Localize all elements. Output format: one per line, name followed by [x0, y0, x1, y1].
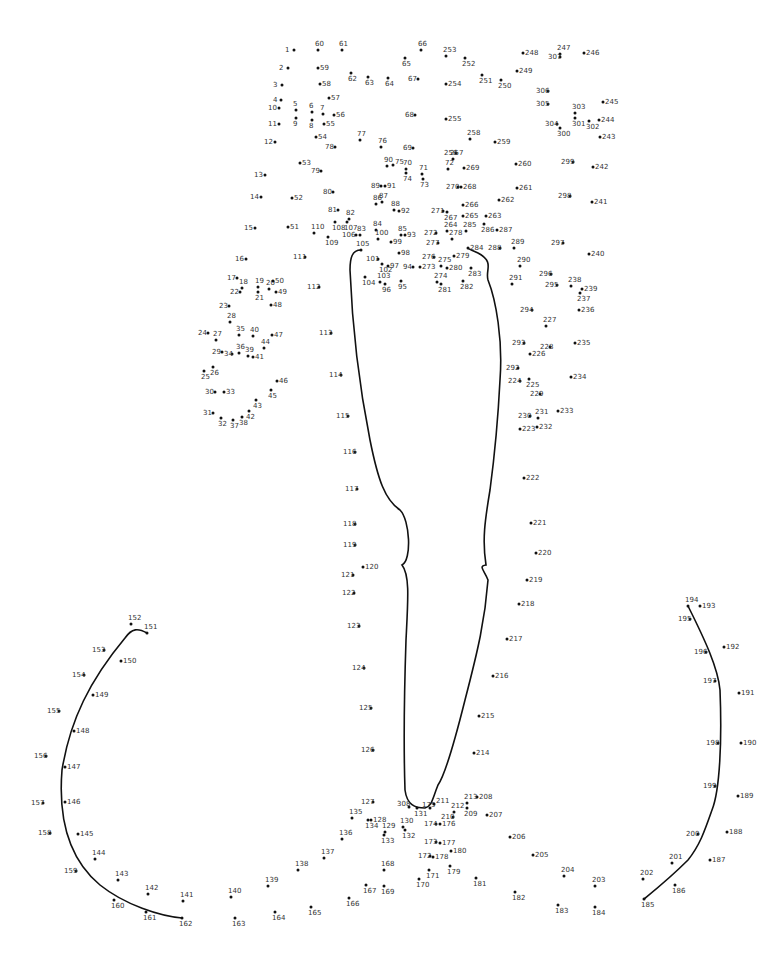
dot[interactable] — [278, 123, 281, 126]
dot[interactable] — [293, 49, 296, 52]
dot[interactable] — [466, 802, 469, 805]
dot[interactable] — [465, 230, 468, 233]
dot[interactable] — [257, 286, 260, 289]
dot[interactable] — [229, 321, 232, 324]
dot[interactable] — [239, 291, 242, 294]
dot[interactable] — [341, 838, 344, 841]
dot[interactable] — [295, 109, 298, 112]
dot[interactable] — [287, 67, 290, 70]
dot[interactable] — [414, 114, 417, 117]
dot[interactable] — [379, 281, 382, 284]
dot[interactable] — [215, 339, 218, 342]
dot[interactable] — [263, 347, 266, 350]
dot[interactable] — [412, 147, 415, 150]
dot[interactable] — [511, 283, 514, 286]
dot[interactable] — [268, 288, 271, 291]
dot[interactable] — [238, 352, 241, 355]
dot[interactable] — [440, 265, 443, 268]
dot[interactable] — [247, 355, 250, 358]
dot[interactable] — [436, 281, 439, 284]
dot[interactable] — [594, 885, 597, 888]
dot[interactable] — [537, 417, 540, 420]
dot[interactable] — [297, 869, 300, 872]
dot[interactable] — [334, 146, 337, 149]
dot[interactable] — [451, 238, 454, 241]
dot[interactable] — [445, 55, 448, 58]
dot[interactable] — [687, 605, 690, 608]
dot-number-label: 228 — [540, 344, 553, 351]
dot[interactable] — [381, 201, 384, 204]
dot[interactable] — [393, 209, 396, 212]
dot[interactable] — [375, 203, 378, 206]
dot[interactable] — [317, 49, 320, 52]
dot[interactable] — [420, 49, 423, 52]
dot[interactable] — [421, 173, 424, 176]
dot[interactable] — [351, 817, 354, 820]
dot[interactable] — [278, 107, 281, 110]
dot[interactable] — [642, 878, 645, 881]
dot[interactable] — [267, 885, 270, 888]
dot-number-label: 89 — [371, 183, 380, 190]
dot[interactable] — [147, 893, 150, 896]
dot[interactable] — [570, 285, 573, 288]
dot[interactable] — [337, 209, 340, 212]
dot[interactable] — [405, 168, 408, 171]
dot[interactable] — [452, 158, 455, 161]
dot[interactable] — [359, 234, 362, 237]
dot-number-label: 100 — [375, 230, 388, 237]
dot-number-label: 214 — [476, 750, 489, 757]
dot-number-label: 218 — [521, 601, 534, 608]
dot[interactable] — [563, 875, 566, 878]
dot[interactable] — [117, 879, 120, 882]
dot[interactable] — [574, 112, 577, 115]
dot[interactable] — [469, 138, 472, 141]
dot[interactable] — [212, 412, 215, 415]
dot[interactable] — [252, 335, 255, 338]
dot[interactable] — [671, 862, 674, 865]
dot-number-label: 279 — [456, 253, 469, 260]
dot[interactable] — [274, 141, 277, 144]
dot[interactable] — [130, 623, 133, 626]
dot[interactable] — [320, 170, 323, 173]
dot[interactable] — [513, 247, 516, 250]
dot[interactable] — [238, 334, 241, 337]
dot[interactable] — [311, 111, 314, 114]
dot[interactable] — [264, 174, 267, 177]
dot-number-label: 123 — [347, 623, 360, 630]
dot-number-label: 39 — [245, 347, 254, 354]
dot[interactable] — [228, 305, 231, 308]
dot[interactable] — [519, 265, 522, 268]
dot-number-label: 164 — [272, 915, 285, 922]
dot[interactable] — [322, 113, 325, 116]
dot[interactable] — [380, 185, 383, 188]
dot[interactable] — [453, 811, 456, 814]
dot[interactable] — [313, 232, 316, 235]
dot[interactable] — [230, 896, 233, 899]
dot[interactable] — [377, 238, 380, 241]
dot[interactable] — [545, 325, 548, 328]
dot[interactable] — [447, 168, 450, 171]
dot[interactable] — [359, 139, 362, 142]
dot[interactable] — [182, 900, 185, 903]
dot-number-label: 10 — [268, 105, 277, 112]
dot-number-label: 225 — [526, 382, 539, 389]
dot[interactable] — [254, 227, 257, 230]
dot[interactable] — [280, 99, 283, 102]
dot[interactable] — [245, 258, 248, 261]
dot[interactable] — [281, 84, 284, 87]
dot[interactable] — [260, 196, 263, 199]
dot[interactable] — [323, 857, 326, 860]
dot[interactable] — [341, 49, 344, 52]
dot-number-label: 41 — [255, 354, 264, 361]
dot[interactable] — [380, 146, 383, 149]
dot[interactable] — [360, 249, 363, 252]
dot[interactable] — [386, 165, 389, 168]
dot[interactable] — [332, 191, 335, 194]
dot[interactable] — [417, 78, 420, 81]
dot[interactable] — [241, 287, 244, 290]
dot[interactable] — [146, 632, 149, 635]
dot[interactable] — [400, 234, 403, 237]
dot[interactable] — [94, 858, 97, 861]
dot[interactable] — [383, 869, 386, 872]
dot[interactable] — [214, 391, 217, 394]
